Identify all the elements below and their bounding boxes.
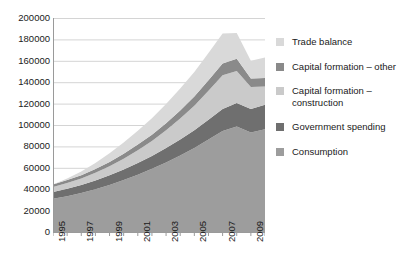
legend-item-3[interactable]: Government spending	[276, 121, 417, 133]
y-axis-tick-labels: 2000001800001600001400001200001000008000…	[0, 0, 50, 265]
x-axis-tick-label: 2001	[142, 221, 152, 242]
legend-swatch-icon	[276, 123, 284, 131]
x-axis-tick-label: 1997	[85, 221, 95, 242]
legend-swatch-icon	[276, 148, 284, 156]
y-axis-tick-label: 200000	[2, 13, 50, 23]
legend-item-label: Capital formation – construction	[292, 85, 417, 108]
legend-swatch-icon	[276, 63, 284, 71]
y-axis-tick-label: 120000	[2, 99, 50, 109]
x-axis-tick-labels: 19951997199920012003200520072009	[53, 236, 265, 265]
y-axis-tick-label: 0	[2, 227, 50, 237]
y-axis-tick-label: 100000	[2, 120, 50, 130]
area-series-svg	[53, 18, 265, 238]
legend-item-label: Capital formation – other	[292, 61, 396, 73]
x-axis-tick-label: 2003	[170, 221, 180, 242]
y-axis-tick-label: 160000	[2, 56, 50, 66]
legend-swatch-icon	[276, 87, 284, 95]
legend-item-label: Government spending	[292, 121, 385, 133]
y-axis-tick-label: 20000	[2, 206, 50, 216]
legend-item-1[interactable]: Capital formation – other	[276, 61, 417, 73]
x-axis-tick-label: 2005	[198, 221, 208, 242]
y-axis-tick-label: 40000	[2, 184, 50, 194]
legend-item-label: Trade balance	[292, 36, 352, 48]
legend-swatch-icon	[276, 38, 284, 46]
x-axis-tick-label: 2009	[255, 221, 265, 242]
stacked-area-chart: 2000001800001600001400001200001000008000…	[0, 0, 272, 265]
y-axis-tick-label: 80000	[2, 142, 50, 152]
legend-item-2[interactable]: Capital formation – construction	[276, 85, 417, 108]
plot-area	[53, 18, 265, 232]
x-axis-tick-label: 2007	[227, 221, 237, 242]
legend-item-label: Consumption	[292, 146, 348, 158]
y-axis-tick-label: 180000	[2, 35, 50, 45]
legend-item-0[interactable]: Trade balance	[276, 36, 417, 48]
y-axis-tick-label: 60000	[2, 163, 50, 173]
legend-item-4[interactable]: Consumption	[276, 146, 417, 158]
chart-legend: Trade balanceCapital formation – otherCa…	[276, 36, 417, 170]
chart-screenshot: 2000001800001600001400001200001000008000…	[0, 0, 417, 265]
x-axis-tick-label: 1995	[57, 221, 67, 242]
y-axis-tick-label: 140000	[2, 77, 50, 87]
x-axis-tick-label: 1999	[114, 221, 124, 242]
